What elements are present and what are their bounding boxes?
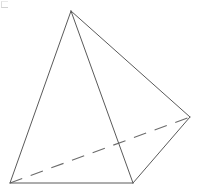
tetrahedron-figure xyxy=(0,0,199,194)
figure-canvas xyxy=(0,0,199,194)
